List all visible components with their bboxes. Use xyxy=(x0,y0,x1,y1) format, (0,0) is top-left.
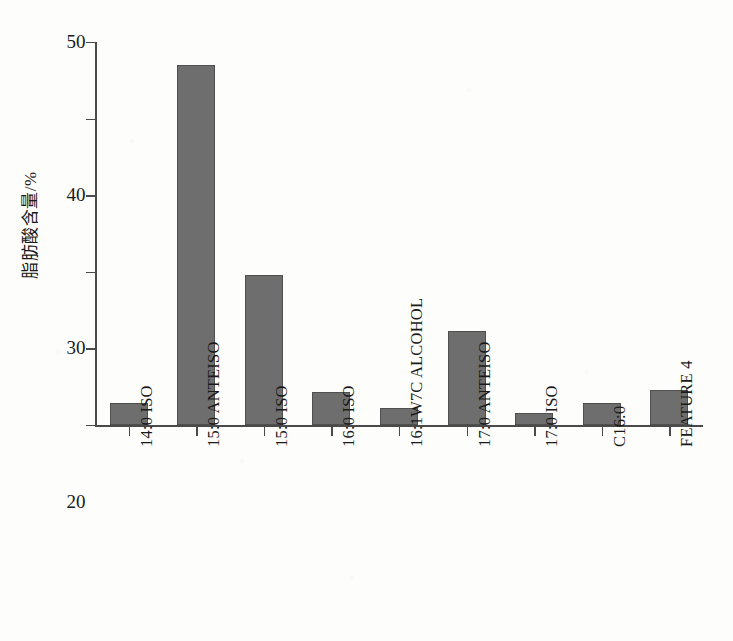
x-tick-2 xyxy=(264,425,265,436)
x-axis-label: 16:0 ISO xyxy=(339,385,359,447)
y-tick-0: 0 xyxy=(86,425,95,426)
x-axis-label: FEATURE 4 xyxy=(677,360,697,447)
y-tick-10: 10 xyxy=(86,348,95,349)
x-tick-8 xyxy=(669,425,670,436)
x-tick-1 xyxy=(196,425,197,436)
x-tick-0 xyxy=(129,425,130,436)
x-axis-label: 14:0 ISO xyxy=(137,385,157,447)
x-axis-label: 17:0 ANTEISO xyxy=(475,341,495,447)
x-tick-4 xyxy=(399,425,400,436)
x-axis-label: 16:1W7C ALCOHOL xyxy=(407,298,427,447)
x-tick-6 xyxy=(534,425,535,436)
x-axis-label: C16:0 xyxy=(610,406,630,447)
x-axis-label: 15:0 ANTEISO xyxy=(204,341,224,447)
x-tick-5 xyxy=(467,425,468,436)
y-tick-label-40: 40 xyxy=(66,184,85,206)
x-tick-7 xyxy=(602,425,603,436)
y-tick-label-50: 50 xyxy=(66,31,85,53)
y-tick-40: 40 xyxy=(86,119,95,120)
x-tick-3 xyxy=(331,425,332,436)
y-tick-30: 30 xyxy=(86,195,95,196)
y-tick-label-20: 20 xyxy=(66,490,85,512)
x-axis-label: 17:0 ISO xyxy=(542,385,562,447)
y-axis-line xyxy=(95,42,97,425)
y-tick-label-30: 30 xyxy=(66,337,85,359)
x-axis-label: 15:0 ISO xyxy=(272,385,292,447)
y-tick-50: 50 xyxy=(86,42,95,43)
y-axis-title: 脂肪酸含量/% xyxy=(16,150,41,300)
y-tick-20: 20 xyxy=(86,272,95,273)
plot-area: 01020304050 xyxy=(95,42,705,425)
bar-chart-figure: 脂肪酸含量/% 01020304050 14:0 ISO15:0 ANTEISO… xyxy=(0,0,733,641)
